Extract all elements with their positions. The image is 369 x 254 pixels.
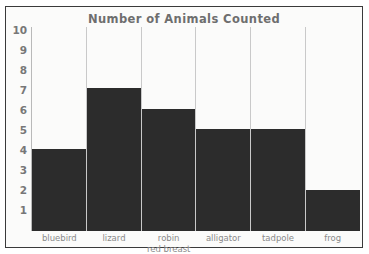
x-label-alligator: alligator — [196, 233, 251, 254]
y-tick-label: 1 — [20, 205, 27, 215]
plot-wrapper: 10 9 8 7 6 5 4 3 2 1 bluebird — [6, 25, 362, 247]
plot-area — [32, 27, 360, 231]
bar-bluebird[interactable] — [32, 149, 86, 231]
x-label-lizard: lizard — [87, 233, 142, 254]
bar-frog[interactable] — [306, 190, 360, 231]
y-tick-label: 6 — [20, 105, 27, 115]
bar-tadpole[interactable] — [251, 129, 305, 231]
x-label-line: tadpole — [262, 233, 294, 243]
x-label-line: red breast — [142, 244, 195, 254]
x-axis: bluebird lizard robin red breast alligat… — [32, 233, 360, 254]
x-label-robin-red-breast: robin red breast — [141, 233, 196, 254]
y-tick-label: 5 — [20, 125, 27, 135]
chart-frame: Number of Animals Counted 10 9 8 7 6 5 4… — [5, 6, 363, 248]
x-label-line: frog — [324, 233, 341, 243]
chart-title: Number of Animals Counted — [6, 12, 362, 26]
bar-cell — [32, 27, 87, 231]
y-tick-label: 10 — [12, 25, 27, 35]
y-tick-label: 4 — [20, 145, 27, 155]
y-tick-label: 8 — [20, 65, 27, 75]
x-label-line: alligator — [206, 233, 241, 243]
x-label-line: bluebird — [42, 233, 77, 243]
bar-cell — [306, 27, 360, 231]
bar-cell — [196, 27, 251, 231]
bar-cell — [142, 27, 197, 231]
bar-cell — [251, 27, 306, 231]
y-tick-label: 9 — [20, 45, 27, 55]
y-tick-label: 3 — [20, 165, 27, 175]
x-label-line: robin — [158, 233, 180, 243]
bar-alligator[interactable] — [196, 129, 250, 231]
bar-cell — [87, 27, 142, 231]
bar-robin-red-breast[interactable] — [142, 109, 196, 231]
bar-series — [32, 27, 360, 231]
x-label-line: lizard — [102, 233, 125, 243]
bar-lizard[interactable] — [87, 88, 141, 231]
x-label-frog: frog — [305, 233, 360, 254]
y-tick-label: 2 — [20, 185, 27, 195]
x-label-bluebird: bluebird — [32, 233, 87, 254]
x-label-tadpole: tadpole — [251, 233, 306, 254]
y-axis: 10 9 8 7 6 5 4 3 2 1 — [6, 25, 30, 231]
y-tick-label: 7 — [20, 85, 27, 95]
